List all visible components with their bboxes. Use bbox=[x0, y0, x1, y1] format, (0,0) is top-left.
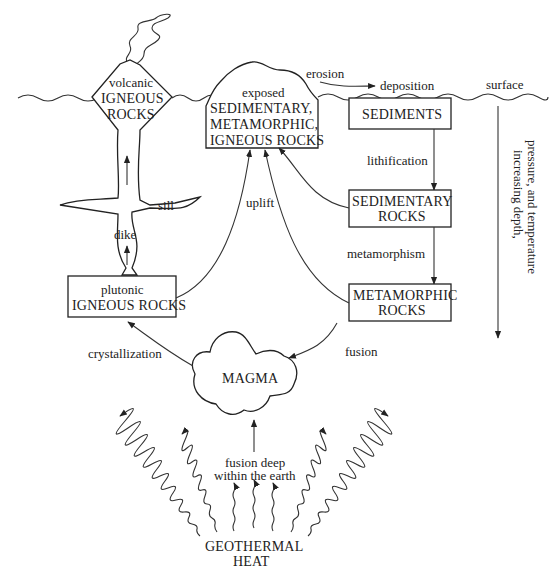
rock-cycle-diagram: surface volcanic IGNEOUS ROCKS sill dike… bbox=[0, 0, 556, 579]
heat-label: HEAT bbox=[233, 554, 270, 569]
uplift-arrow-metamorphic bbox=[265, 150, 349, 303]
metamorphic-rocks-line2: ROCKS bbox=[378, 303, 426, 318]
crystallization-label: crystallization bbox=[88, 346, 162, 361]
plutonic-igneous-rocks-label: IGNEOUS ROCKS bbox=[72, 298, 186, 313]
exposed-metamorphic-label: METAMORPHIC, bbox=[210, 117, 318, 132]
fusion-deep-line2: within the earth bbox=[214, 468, 296, 483]
deposition-label: deposition bbox=[380, 78, 435, 93]
volcanic-igneous-label: IGNEOUS bbox=[101, 91, 164, 106]
sedimentary-rocks-line1: SEDIMENTARY bbox=[352, 194, 453, 209]
smoke-icon bbox=[126, 14, 170, 66]
volcanic-rocks-label: ROCKS bbox=[107, 107, 155, 122]
erosion-arrow bbox=[320, 82, 375, 86]
dike-label: dike bbox=[114, 227, 137, 242]
exposed-sedimentary-label: SEDIMENTARY, bbox=[210, 101, 313, 116]
exposed-igneous-label: IGNEOUS ROCKS bbox=[210, 133, 324, 148]
fusion-label: fusion bbox=[345, 344, 378, 359]
depth-axis-line2: pressure, and temperature bbox=[525, 140, 540, 274]
geothermal-label: GEOTHERMAL bbox=[205, 539, 303, 554]
exposed-label: exposed bbox=[242, 85, 285, 100]
volcanic-label: volcanic bbox=[109, 75, 153, 90]
magma-label: MAGMA bbox=[222, 371, 279, 386]
plutonic-label: plutonic bbox=[101, 282, 144, 297]
uplift-arrow-plutonic bbox=[176, 150, 250, 298]
depth-axis-line1: increasing depth, bbox=[511, 150, 526, 239]
metamorphism-label: metamorphism bbox=[347, 246, 425, 261]
sedimentary-rocks-line2: ROCKS bbox=[378, 209, 426, 224]
uplift-arrow-sedimentary bbox=[279, 148, 349, 208]
erosion-label: erosion bbox=[306, 66, 345, 81]
lithification-label: lithification bbox=[367, 153, 428, 168]
fusion-arrow bbox=[289, 323, 337, 358]
metamorphic-rocks-line1: METAMORPHIC bbox=[353, 288, 458, 303]
sediments-label: SEDIMENTS bbox=[362, 107, 442, 122]
sill-label: sill bbox=[158, 198, 174, 213]
surface-label: surface bbox=[486, 77, 524, 92]
uplift-label: uplift bbox=[246, 195, 275, 210]
